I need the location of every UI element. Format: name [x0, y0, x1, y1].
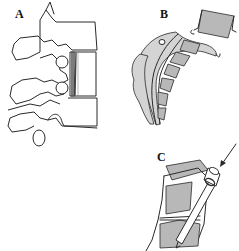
vertebrae-lateral-illustration	[0, 0, 120, 180]
instrument-insertion-illustration	[120, 140, 239, 251]
panel-c: C	[120, 140, 239, 251]
panel-b: B	[120, 0, 239, 140]
curved-spine-illustration	[120, 0, 239, 140]
panel-a: A	[0, 0, 120, 180]
